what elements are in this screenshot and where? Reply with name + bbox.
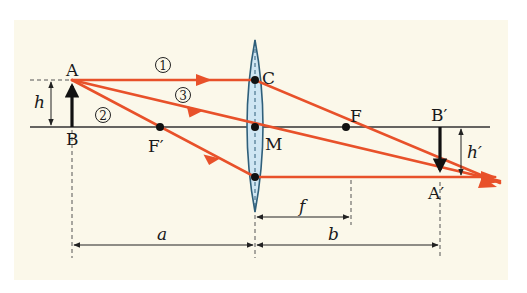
- label-M: M: [265, 134, 282, 154]
- ray-2-label: 2: [99, 109, 107, 123]
- label-F: F: [350, 106, 362, 126]
- lens-diagram: 1 3 2 A B C F F′ M B′ A′ h h′ f a b: [0, 0, 527, 293]
- ray-3-label: 3: [179, 89, 187, 103]
- label-A: A: [65, 60, 79, 80]
- label-b: b: [328, 224, 339, 244]
- point-M: [251, 123, 259, 131]
- label-F-prime: F′: [148, 136, 164, 156]
- label-h-prime: h′: [467, 142, 482, 162]
- label-h: h: [34, 92, 45, 112]
- point-lower: [251, 173, 259, 181]
- ray-1-label: 1: [159, 59, 167, 73]
- label-B: B: [66, 129, 79, 149]
- label-a: a: [157, 224, 167, 244]
- point-F: [342, 123, 350, 131]
- label-A-prime: A′: [427, 183, 444, 203]
- label-C: C: [262, 68, 275, 88]
- label-B-prime: B′: [431, 105, 447, 125]
- point-F-prime: [156, 123, 164, 131]
- point-C: [251, 76, 259, 84]
